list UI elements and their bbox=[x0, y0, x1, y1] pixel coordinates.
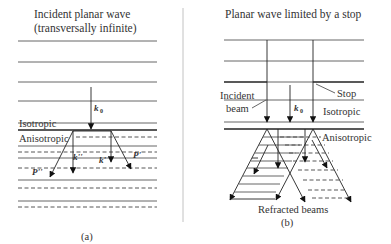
panel-a-title-line2: (transversally infinite) bbox=[34, 22, 137, 35]
stop-label: Stop bbox=[337, 88, 356, 99]
label-k-prime: k' bbox=[99, 155, 107, 165]
incident-wavefronts bbox=[18, 41, 157, 123]
k0-label-b: k bbox=[294, 103, 299, 113]
anisotropic-label-b: Anisotropic bbox=[322, 132, 372, 143]
birefringence-diagram: Incident planar wave (transversally infi… bbox=[0, 0, 391, 244]
svg-text:0: 0 bbox=[100, 108, 103, 114]
panel-a-title-line1: Incident planar wave bbox=[34, 8, 130, 21]
k0-label: k bbox=[94, 103, 99, 113]
caption-a: (a) bbox=[81, 231, 93, 243]
label-p-prime: P' bbox=[133, 150, 141, 160]
label-k-double-prime: k'' bbox=[73, 152, 83, 162]
isotropic-label: Isotropic bbox=[19, 118, 57, 129]
panel-b: Planar wave limited by a stop k 0 Incide… bbox=[220, 8, 372, 229]
refracted-beams-label: Refracted beams bbox=[258, 204, 328, 215]
panel-b-title: Planar wave limited by a stop bbox=[225, 8, 362, 21]
panel-a: Incident planar wave (transversally infi… bbox=[18, 8, 157, 243]
isotropic-label-b: Isotropic bbox=[323, 106, 361, 117]
anisotropic-label: Anisotropic bbox=[19, 133, 69, 144]
incident-label-2: beam bbox=[226, 103, 249, 114]
caption-b: (b) bbox=[281, 217, 294, 229]
svg-text:0: 0 bbox=[300, 108, 303, 114]
incident-label-1: Incident bbox=[220, 90, 254, 101]
label-p-double-prime: P'' bbox=[32, 167, 43, 177]
refracted-beam-ordinary bbox=[230, 129, 313, 200]
